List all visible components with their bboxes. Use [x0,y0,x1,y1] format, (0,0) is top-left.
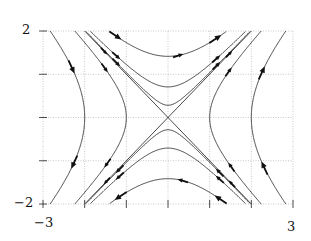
y-max-label: 2 [22,22,30,37]
y-min-label: −2 [14,195,33,210]
x-min-label: −3 [34,215,53,230]
x-max-label: 3 [287,219,295,234]
phase-portrait-plot [0,0,311,241]
